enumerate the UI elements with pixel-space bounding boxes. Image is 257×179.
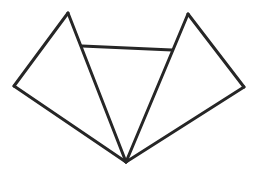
background: [0, 0, 257, 179]
geometry-diagram: [0, 0, 257, 179]
